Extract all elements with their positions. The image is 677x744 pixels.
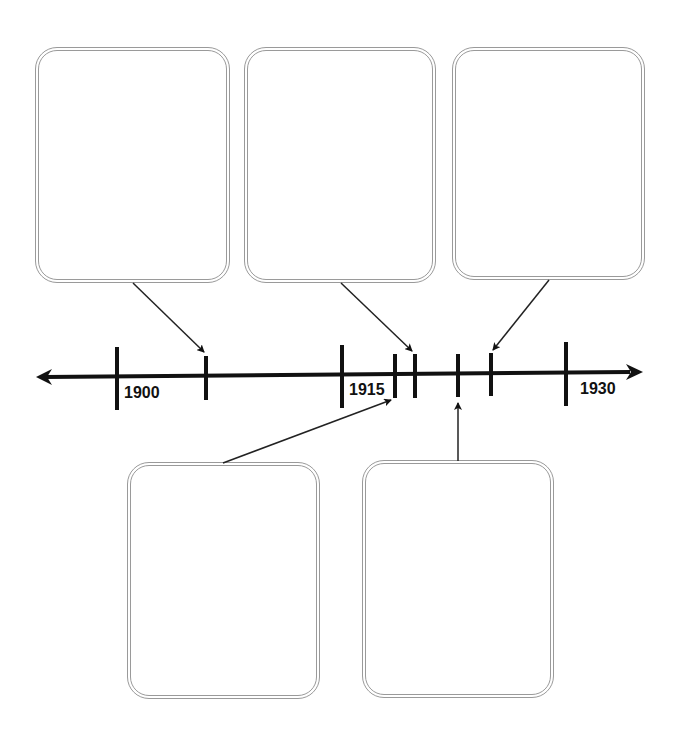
year-label-1900: 1900	[124, 384, 160, 402]
timeline-axis	[45, 372, 630, 377]
year-label-1930: 1930	[580, 380, 616, 398]
connector-arrow	[133, 283, 204, 352]
connector-arrow	[493, 280, 549, 350]
timeline-graphic	[0, 0, 677, 744]
connector-arrow	[223, 400, 391, 463]
year-label-1915: 1915	[349, 381, 385, 399]
connector-arrow	[341, 283, 412, 351]
